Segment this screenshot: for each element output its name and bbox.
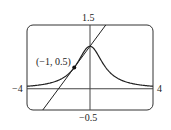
y-max-label: 1.5 xyxy=(82,13,95,23)
x-min-label: −4 xyxy=(12,84,23,94)
point-marker xyxy=(72,66,76,70)
x-max-label: 4 xyxy=(157,84,162,94)
y-min-label: −0.5 xyxy=(79,113,97,123)
point-label: (−1, 0.5) xyxy=(36,57,71,67)
